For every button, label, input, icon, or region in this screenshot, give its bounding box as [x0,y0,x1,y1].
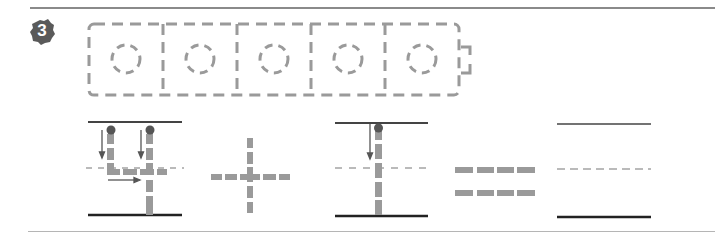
bottom-divider [28,231,715,232]
blank-guide-panel [0,0,715,233]
